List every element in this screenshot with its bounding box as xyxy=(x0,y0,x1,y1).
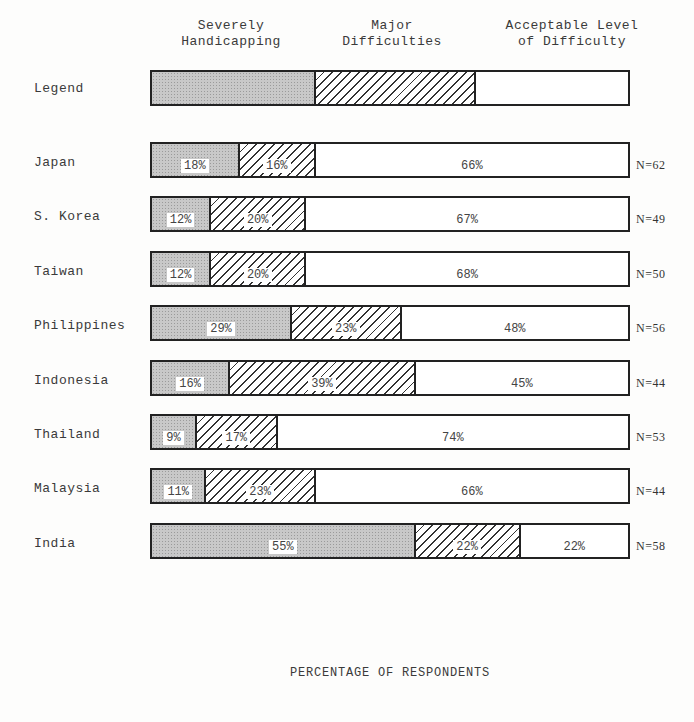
stacked-bar: 16%39%45% xyxy=(150,360,630,396)
stacked-bar: 55%22%22% xyxy=(150,523,630,559)
severe-segment: 12% xyxy=(152,253,209,285)
percent-label: 67% xyxy=(453,213,481,227)
percent-label: 12% xyxy=(167,213,195,227)
legend-swatch-acceptable xyxy=(474,72,628,104)
legend-header-line: Handicapping xyxy=(150,34,312,50)
percent-label: 16% xyxy=(176,377,204,391)
acceptable-segment: 67% xyxy=(304,198,628,230)
major-segment: 20% xyxy=(209,253,304,285)
major-segment: 16% xyxy=(238,144,314,176)
severe-segment: 55% xyxy=(152,525,414,557)
percent-label: 16% xyxy=(263,159,291,173)
legend-header-severe: Severely Handicapping xyxy=(150,18,312,50)
acceptable-segment: 22% xyxy=(519,525,628,557)
sample-size-label: N=44 xyxy=(636,376,665,391)
acceptable-segment: 74% xyxy=(276,416,628,448)
stacked-bar: 29%23%48% xyxy=(150,305,630,341)
percent-label: 23% xyxy=(332,322,360,336)
sample-size-label: N=58 xyxy=(636,539,665,554)
country-label: Philippines xyxy=(34,318,125,333)
legend-header-line: Major xyxy=(312,18,472,34)
legend-row-label: Legend xyxy=(34,81,84,96)
acceptable-segment: 68% xyxy=(304,253,628,285)
legend-swatch-major xyxy=(314,72,474,104)
acceptable-segment: 66% xyxy=(314,470,628,502)
percent-label: 66% xyxy=(458,485,486,499)
percent-label: 20% xyxy=(244,268,272,282)
stacked-bar: 11%23%66% xyxy=(150,468,630,504)
percent-label: 17% xyxy=(222,431,250,445)
severe-segment: 16% xyxy=(152,362,228,394)
severe-segment: 18% xyxy=(152,144,238,176)
acceptable-segment: 48% xyxy=(400,307,629,339)
major-segment: 20% xyxy=(209,198,304,230)
percent-label: 9% xyxy=(163,431,183,445)
legend-header-acceptable: Acceptable Level of Difficulty xyxy=(472,18,672,50)
percent-label: 74% xyxy=(439,431,467,445)
sample-size-label: N=62 xyxy=(636,158,665,173)
stacked-bar: 18%16%66% xyxy=(150,142,630,178)
acceptable-segment: 45% xyxy=(414,362,628,394)
x-axis-label: PERCENTAGE OF RESPONDENTS xyxy=(290,666,490,680)
percent-label: 18% xyxy=(181,159,209,173)
major-segment: 22% xyxy=(414,525,519,557)
legend-header-line: Severely xyxy=(150,18,312,34)
country-label: Indonesia xyxy=(34,373,109,388)
sample-size-label: N=49 xyxy=(636,212,665,227)
stacked-bar: 9%17%74% xyxy=(150,414,630,450)
major-segment: 23% xyxy=(290,307,399,339)
legend-header-line: Difficulties xyxy=(312,34,472,50)
legend-swatch-severe xyxy=(152,72,314,104)
percent-label: 23% xyxy=(246,485,274,499)
stacked-bar: 12%20%68% xyxy=(150,251,630,287)
percent-label: 48% xyxy=(501,322,529,336)
country-label: India xyxy=(34,536,76,551)
country-label: Taiwan xyxy=(34,264,84,279)
severe-segment: 9% xyxy=(152,416,195,448)
percent-label: 22% xyxy=(453,540,481,554)
percent-label: 12% xyxy=(167,268,195,282)
country-label: Malaysia xyxy=(34,481,100,496)
legend-header-line: Acceptable Level xyxy=(472,18,672,34)
percent-label: 20% xyxy=(244,213,272,227)
country-label: Japan xyxy=(34,155,76,170)
severe-segment: 12% xyxy=(152,198,209,230)
legend-header-line: of Difficulty xyxy=(472,34,672,50)
legend-bar xyxy=(150,70,630,106)
sample-size-label: N=50 xyxy=(636,267,665,282)
major-segment: 17% xyxy=(195,416,276,448)
severe-segment: 11% xyxy=(152,470,204,502)
major-segment: 23% xyxy=(204,470,313,502)
percent-label: 66% xyxy=(458,159,486,173)
sample-size-label: N=44 xyxy=(636,484,665,499)
percent-label: 29% xyxy=(207,322,235,336)
percent-label: 11% xyxy=(164,485,192,499)
country-label: Thailand xyxy=(34,427,100,442)
sample-size-label: N=53 xyxy=(636,430,665,445)
country-label: S. Korea xyxy=(34,209,100,224)
severe-segment: 29% xyxy=(152,307,290,339)
percent-label: 39% xyxy=(308,377,336,391)
percent-label: 45% xyxy=(508,377,536,391)
major-segment: 39% xyxy=(228,362,414,394)
percent-label: 68% xyxy=(453,268,481,282)
percent-label: 22% xyxy=(560,540,588,554)
percent-label: 55% xyxy=(269,540,297,554)
acceptable-segment: 66% xyxy=(314,144,628,176)
sample-size-label: N=56 xyxy=(636,321,665,336)
legend-header-major: Major Difficulties xyxy=(312,18,472,50)
stacked-bar: 12%20%67% xyxy=(150,196,630,232)
